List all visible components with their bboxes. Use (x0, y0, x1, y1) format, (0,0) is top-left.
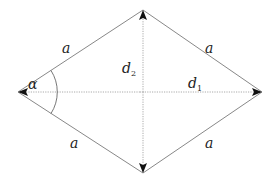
side-label-top-right: a (205, 40, 213, 56)
side-label-bottom-right: a (205, 135, 213, 151)
diagonal-label-d2: d2 (122, 60, 136, 78)
diagonals (18, 10, 262, 173)
rhombus-diagram: a a a a α d2 d1 (0, 0, 273, 183)
side-label-top-left: a (62, 40, 70, 56)
diagonal-label-d1: d1 (188, 75, 202, 93)
side-top-right (143, 10, 262, 92)
angle-alpha-arc (51, 71, 57, 114)
angle-label-alpha: α (28, 76, 38, 92)
side-bottom-left (18, 92, 143, 173)
side-bottom-right (143, 92, 262, 173)
side-label-bottom-left: a (70, 135, 78, 151)
